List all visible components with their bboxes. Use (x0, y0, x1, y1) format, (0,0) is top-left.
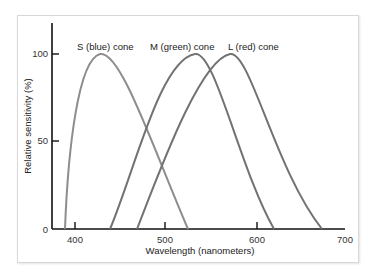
l-cone-label: L (red) cone (228, 41, 279, 52)
s-cone-label: S (blue) cone (77, 41, 134, 52)
x-tick-700: 700 (337, 234, 353, 245)
cone-sensitivity-chart: 100 50 0 400 500 600 700 Wavelength (nan… (0, 0, 371, 276)
x-tick-400: 400 (67, 234, 83, 245)
y-axis-label: Relative sensitivity (%) (22, 78, 33, 174)
x-axis-label: Wavelength (nanometers) (146, 245, 255, 256)
m-cone-label: M (green) cone (150, 41, 214, 52)
y-tick-50: 50 (37, 135, 48, 146)
x-tick-600: 600 (249, 234, 265, 245)
y-tick-0: 0 (43, 224, 48, 235)
y-tick-100: 100 (32, 48, 48, 59)
s-cone-curve (65, 54, 188, 229)
l-cone-curve (137, 54, 322, 229)
x-tick-500: 500 (157, 234, 173, 245)
